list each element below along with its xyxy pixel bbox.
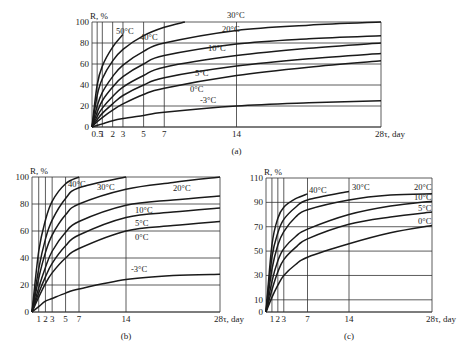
x-tick-label: 1 [100,129,105,139]
x-tick-label: 2 [110,129,115,139]
curve-label: 50°C [116,26,134,36]
y-tick-label: 50 [254,246,264,256]
curve-label: 10°C [208,43,226,53]
figure-three-charts: 0204060801000.5123571428τ, dayR, %(a)50°… [0,0,457,355]
y-tick-label: 30 [254,270,264,280]
y-tick-label: 0 [85,122,90,132]
curve-label: 30°C [97,182,115,192]
x-tick-label: 1 [270,314,275,324]
curve-label: 30°C [352,182,370,192]
y-axis-title: R, % [264,167,283,177]
curve-label: 40°C [309,185,327,195]
x-tick-label: 28τ, day [375,129,406,139]
y-tick-label: 80 [20,199,30,209]
chart-caption: (b) [121,331,132,341]
y-tick-label: 60 [80,59,90,69]
y-tick-label: 10 [254,295,264,305]
x-tick-label: 3 [282,314,287,324]
curve-label: -3°C [200,95,216,105]
x-tick-label: 3 [121,129,126,139]
curve-label: 40°C [140,32,158,42]
curve-label: 20°C [414,182,432,192]
curve-label: 0°C [190,84,204,94]
y-tick-label: 70 [254,222,264,232]
curve-label: 0°C [135,232,149,242]
y-tick-label: 80 [80,38,90,48]
y-axis-title: R, % [30,166,49,176]
curve-label: 5°C [195,68,209,78]
y-tick-label: 60 [20,226,30,236]
y-tick-label: 40 [20,253,30,263]
curve-label: 20°C [173,183,191,193]
curve-label: 30°C [227,10,245,20]
curve-label: 5°C [418,203,432,213]
x-tick-label: 14 [232,129,242,139]
y-tick-label: 40 [80,80,90,90]
x-tick-label: 7 [305,314,310,324]
y-tick-label: 90 [254,197,264,207]
x-tick-label: 2 [276,314,281,324]
x-tick-label: 5 [63,314,68,324]
y-axis-title: R, % [90,11,109,21]
y-tick-label: 0 [25,307,30,317]
x-tick-label: 14 [122,314,132,324]
y-tick-label: 20 [20,280,30,290]
x-tick-label: 1 [36,314,41,324]
chart-a: 0204060801000.5123571428τ, dayR, %(a)50°… [76,10,406,156]
x-tick-label: 5 [141,129,146,139]
x-tick-label: 28τ, day [214,314,245,324]
chart-b: 020406080100123571428τ, dayR, %(b)40°C30… [16,166,245,341]
chart-caption: (a) [232,146,242,156]
y-tick-label: 100 [76,17,90,27]
chart-caption: (c) [344,331,354,341]
curve-label: 20°C [222,24,240,34]
y-tick-label: 100 [16,172,30,182]
y-tick-label: 110 [250,173,264,183]
chart-c: 0103050709011012371428τ, dayR, %(c)40°C3… [250,167,457,341]
curve-label: 10°C [414,192,432,202]
curve-label: 5°C [135,218,149,228]
x-tick-label: 3 [50,314,55,324]
y-tick-label: 0 [259,307,264,317]
curve-label: -3°C [131,264,147,274]
curve-label: 40°C [68,179,86,189]
x-tick-label: 7 [162,129,167,139]
x-tick-label: 7 [77,314,82,324]
curve-label: 0°C [418,216,432,226]
x-tick-label: 28τ, day [426,314,457,324]
x-tick-label: 2 [43,314,48,324]
x-tick-label: 14 [345,314,355,324]
y-tick-label: 20 [80,101,90,111]
